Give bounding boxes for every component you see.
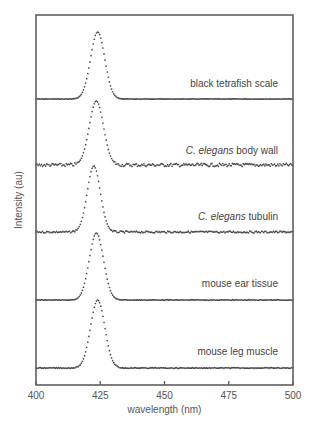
series-label: C. elegans body wall (186, 145, 278, 156)
trace-4 (35, 299, 294, 369)
series-labels: black tetrafish scaleC. elegans body wal… (186, 78, 279, 357)
series-label: mouse leg muscle (197, 346, 278, 357)
trace-1 (35, 100, 294, 167)
y-axis-label: Intensity (au) (13, 171, 24, 229)
x-tick-label: 425 (92, 390, 109, 401)
plot-frame (36, 15, 293, 385)
spectra-chart: black tetrafish scaleC. elegans body wal… (0, 0, 316, 430)
x-tick-label: 450 (156, 390, 173, 401)
series-label: mouse ear tissue (202, 278, 279, 289)
x-tick-label: 400 (28, 390, 45, 401)
trace-0 (35, 31, 294, 100)
trace-2 (35, 165, 294, 233)
x-axis-ticks: 400425450475500 (28, 381, 302, 401)
series-label: black tetrafish scale (190, 78, 278, 89)
series-label: C. elegans tubulin (198, 211, 278, 222)
x-axis-label: wavelength (nm) (127, 404, 202, 415)
trace-3 (35, 232, 294, 301)
x-tick-label: 475 (220, 390, 237, 401)
x-tick-label: 500 (285, 390, 302, 401)
